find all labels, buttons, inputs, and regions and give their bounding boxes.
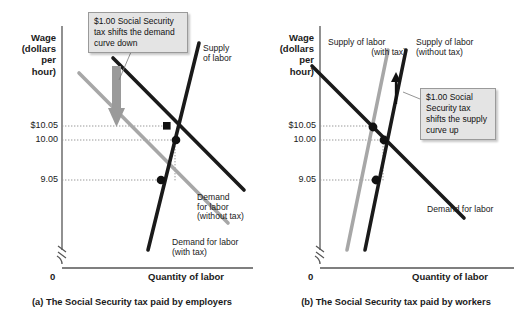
panel-b-tick-1005: $10.05	[264, 120, 316, 130]
label-demand-without-tax: Demand for labor (without tax)	[197, 193, 244, 222]
panel-a-tick-905: 9.05	[6, 174, 58, 184]
panel-b-callout: $1.00 Social Security tax shifts the sup…	[420, 88, 496, 140]
marker-equilibrium-905	[372, 176, 381, 185]
y-axis-line-1: Wage	[264, 32, 314, 43]
panel-b-tick-1000: 10.00	[264, 134, 316, 144]
label-supply-without-tax: Supply of labor (without tax)	[416, 38, 473, 57]
panel-b-axes	[315, 26, 514, 268]
panel-a: Wage (dollars per hour) $10.05 10.00 9.0…	[0, 0, 264, 322]
dwt-line-2: (with tax)	[172, 248, 238, 258]
curve-supply	[148, 43, 199, 250]
panel-b-y-axis-title: Wage (dollars per hour)	[264, 32, 314, 77]
callout-b-line-3: shifts the supply	[426, 114, 491, 125]
y-axis-line-4: hour)	[6, 66, 56, 77]
axis-corner	[315, 256, 320, 264]
label-demand-with-tax: Demand for labor (with tax)	[172, 238, 238, 257]
callout-b-line-1: $1.00 Social	[426, 92, 491, 103]
callout-a-line-2: tax shifts the demand	[94, 27, 183, 38]
panel-b-tick-905: 9.05	[264, 174, 316, 184]
callout-a-line-3: curve down	[94, 38, 183, 49]
panel-b: Wage (dollars per hour) $10.05 10.00 9.0…	[264, 0, 528, 322]
label-supply-of-labor: Supply of labor	[203, 44, 232, 63]
panel-a-y-axis-title: Wage (dollars per hour)	[6, 32, 56, 77]
y-axis-line-2: (dollars	[6, 43, 56, 54]
swt-line-2: (with tax)	[328, 48, 406, 58]
marker-equilibrium-905	[157, 176, 166, 185]
panel-b-guides	[320, 126, 383, 181]
y-axis-line-3: per	[6, 54, 56, 65]
supply-label-line-2: of labor	[203, 54, 232, 64]
y-axis-line-1: Wage	[6, 32, 56, 43]
y-axis-line-2: (dollars	[264, 43, 314, 54]
callout-a-line-1: $1.00 Social Security	[94, 16, 183, 27]
curve-supply-with-tax	[347, 50, 388, 250]
panel-b-x-axis-title: Quantity of labor	[412, 272, 488, 283]
panel-a-callout: $1.00 Social Security tax shifts the dem…	[88, 12, 188, 53]
panel-b-caption: (b) The Social Security tax paid by work…	[264, 297, 528, 307]
marker-equilibrium-1000	[172, 136, 181, 145]
swot-line-2: (without tax)	[416, 48, 473, 58]
panel-a-x-axis-title: Quantity of labor	[148, 272, 224, 283]
marker-equilibrium-1000	[380, 136, 389, 145]
panel-b-origin-label: 0	[308, 272, 313, 283]
y-axis-line-3: per	[264, 54, 314, 65]
axis-corner	[57, 256, 62, 264]
panel-a-tick-1005: $10.05	[6, 120, 58, 130]
panel-a-origin-label: 0	[50, 272, 55, 283]
figure-container: Wage (dollars per hour) $10.05 10.00 9.0…	[0, 0, 528, 322]
y-axis-line-4: hour)	[264, 66, 314, 77]
panel-a-caption: (a) The Social Security tax paid by empl…	[0, 297, 264, 307]
marker-equilibrium-1005	[369, 123, 378, 132]
dwot-line-3: (without tax)	[197, 212, 244, 222]
label-supply-with-tax: Supply of labor (with tax)	[328, 38, 406, 57]
label-demand-for-labor: Demand for labor	[427, 205, 493, 215]
marker-equilibrium-1005	[163, 122, 171, 130]
callout-leader-b	[403, 92, 420, 99]
callout-b-line-4: curve up	[426, 125, 491, 136]
panel-a-tick-1000: 10.00	[6, 134, 58, 144]
callout-b-line-2: Security tax	[426, 103, 491, 114]
